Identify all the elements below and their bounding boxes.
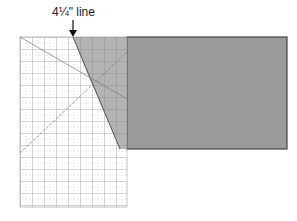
ruler [20, 37, 127, 207]
fabric-rectangle [127, 37, 287, 149]
arrow-down-icon [69, 30, 77, 37]
ruler-cutting-diagram [0, 0, 297, 221]
